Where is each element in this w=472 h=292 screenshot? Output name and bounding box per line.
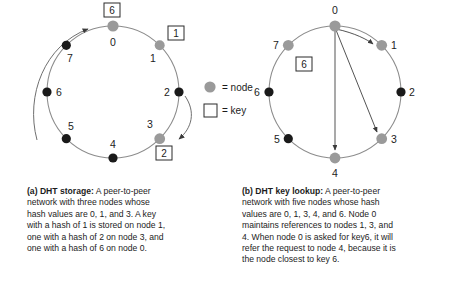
node-dot-b-3[interactable]: [376, 133, 387, 144]
caption-a-title: (a) DHT storage:: [27, 186, 94, 196]
key-box-a-6[interactable]: 6: [104, 3, 120, 17]
node-dot-b-2[interactable]: [396, 87, 405, 96]
node-dot-a-6[interactable]: [42, 87, 51, 96]
node-label-a-4: 4: [110, 138, 116, 150]
node-label-b-3: 3: [391, 133, 397, 145]
caption-a-line-1: network with three nodes whose: [27, 197, 227, 208]
key-label-a-6: 6: [109, 5, 115, 16]
node-dot-b-4[interactable]: [330, 153, 341, 164]
node-dot-b-5[interactable]: [284, 134, 293, 143]
legend-key-text: = key: [222, 105, 246, 116]
key-box-a-1[interactable]: 1: [168, 26, 184, 40]
node-label-b-1: 1: [391, 39, 397, 51]
key-box-b-6[interactable]: 6: [296, 57, 312, 71]
node-label-b-4: 4: [332, 167, 338, 179]
key-label-a-1: 1: [173, 28, 179, 39]
arrow-key2-to-node3-a: [179, 96, 191, 139]
node-label-a-0: 0: [110, 36, 116, 48]
figure-canvas: 0 1 2 3 4 5 6 7 6 1 2 = node: [0, 0, 472, 292]
node-dot-a-0[interactable]: [107, 20, 118, 31]
caption-a-line-0: A peer-to-peer: [94, 186, 151, 196]
node-dot-b-0[interactable]: [329, 20, 340, 31]
node-label-b-6: 6: [254, 86, 260, 98]
node-dot-b-6[interactable]: [264, 87, 273, 96]
arrow-ref-0-to-1-b: [336, 29, 373, 44]
caption-a-line-5: one with a hash of 6 on node 0.: [27, 243, 227, 254]
node-label-a-7: 7: [67, 52, 73, 64]
legend: = node = key: [204, 81, 253, 117]
caption-b-line-6: the node closest to key 6.: [242, 254, 442, 265]
node-dot-a-4[interactable]: [108, 153, 117, 162]
node-label-b-0: 0: [332, 4, 338, 16]
caption-b-line-5: refer the request to node 4, because it …: [242, 243, 442, 254]
node-label-a-1: 1: [150, 52, 156, 64]
node-dot-icon: [204, 81, 215, 92]
node-label-a-5: 5: [68, 120, 74, 132]
node-dot-b-1[interactable]: [376, 40, 387, 51]
caption-b-line-4: 4. When node 0 is asked for key6, it wil…: [242, 232, 442, 243]
node-label-b-2: 2: [409, 86, 415, 98]
node-label-b-5: 5: [274, 133, 280, 145]
node-dot-a-5[interactable]: [62, 134, 71, 143]
caption-b-line-0: A peer-to-peer: [323, 186, 380, 196]
captions: (a) DHT storage: A peer-to-peer network …: [0, 186, 472, 266]
node-label-a-2: 2: [164, 86, 170, 98]
caption-a: (a) DHT storage: A peer-to-peer network …: [27, 186, 227, 266]
caption-b-line-1: network with five nodes whose hash: [242, 197, 442, 208]
node-label-b-7: 7: [273, 39, 279, 51]
node-label-a-6: 6: [56, 86, 62, 98]
caption-b-line-3: maintains references to nodes 1, 3, and: [242, 220, 442, 231]
panel-b: 0 1 2 3 4 5 6 7 6: [254, 4, 415, 179]
arrow-key6-to-node0-a: [34, 29, 88, 140]
node-dot-a-3[interactable]: [154, 133, 165, 144]
caption-a-line-3: with a hash of 1 is stored on node 1,: [27, 220, 227, 231]
key-box-a-2[interactable]: 2: [156, 146, 172, 160]
node-dot-b-7[interactable]: [283, 40, 294, 51]
key-label-b-6: 6: [301, 59, 307, 70]
legend-node-text: = node: [222, 82, 253, 93]
node-dot-a-2[interactable]: [174, 87, 183, 96]
dht-diagram: 0 1 2 3 4 5 6 7 6 1 2 = node: [0, 0, 472, 190]
caption-a-line-4: one with a hash of 2 on node 3, and: [27, 232, 227, 243]
arrow-ref-0-to-3-b: [336, 30, 377, 132]
caption-a-line-2: hash values are 0, 1, and 3. A key: [27, 209, 227, 220]
caption-b-title: (b) DHT key lookup:: [242, 186, 323, 196]
node-dot-a-1[interactable]: [155, 40, 165, 50]
caption-b-line-2: values are 0, 1, 3, 4, and 6. Node 0: [242, 209, 442, 220]
panel-a: 0 1 2 3 4 5 6 7 6 1 2: [34, 3, 192, 163]
key-square-icon: [204, 104, 217, 117]
node-dot-a-7[interactable]: [62, 41, 71, 50]
node-label-a-3: 3: [147, 118, 153, 130]
key-label-a-2: 2: [161, 148, 167, 159]
caption-b: (b) DHT key lookup: A peer-to-peer netwo…: [242, 186, 442, 266]
